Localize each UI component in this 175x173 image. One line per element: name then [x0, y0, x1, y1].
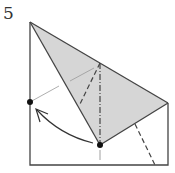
reference-line-outer — [30, 86, 59, 102]
origami-diagram — [0, 0, 175, 173]
target-point — [27, 99, 33, 105]
source-point — [97, 142, 103, 148]
valley-fold-line-lower — [135, 124, 155, 165]
shaded-flap — [30, 22, 168, 145]
